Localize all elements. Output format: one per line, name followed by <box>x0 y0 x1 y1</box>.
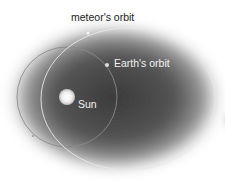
meteor-marker-icon <box>86 31 89 34</box>
earth-orbit-label: Earth's orbit <box>114 57 170 69</box>
space-glow <box>3 20 225 176</box>
earth-orbit-marker-icon <box>32 135 34 137</box>
sun-label: Sun <box>78 98 97 110</box>
orbit-graphic <box>0 0 225 182</box>
earth-marker-icon <box>105 63 109 67</box>
sun-icon <box>59 89 75 105</box>
orbit-diagram: meteor's orbit Earth's orbit Sun <box>0 0 225 182</box>
meteor-orbit-label: meteor's orbit <box>71 11 134 23</box>
